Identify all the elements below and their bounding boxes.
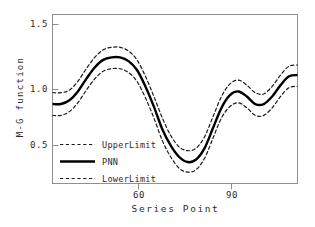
- plot-canvas: [0, 0, 315, 227]
- x-axis-title: Series Point: [52, 203, 299, 214]
- legend-label-lowerlimit: LowerLimit: [102, 174, 156, 184]
- legend-label-pnn: PNN: [102, 157, 118, 167]
- series-line-pnn: [53, 57, 298, 162]
- series-line-upperlimit: [53, 47, 298, 151]
- legend-label-upperlimit: UpperLimit: [102, 140, 156, 150]
- y-tick-marks: [53, 25, 59, 146]
- x-tick-label-90: 90: [217, 190, 247, 200]
- x-tick-label-60: 60: [124, 190, 154, 200]
- series-line-lowerlimit: [53, 68, 298, 172]
- x-tick-marks: [139, 184, 232, 190]
- series-group: [53, 47, 298, 172]
- chart-figure: 1.5 1.0 0.5 60 90 M-G function Series Po…: [0, 0, 315, 227]
- y-axis-title: M-G function: [15, 27, 25, 167]
- plot-frame: [53, 15, 298, 184]
- legend-samples: [60, 145, 95, 179]
